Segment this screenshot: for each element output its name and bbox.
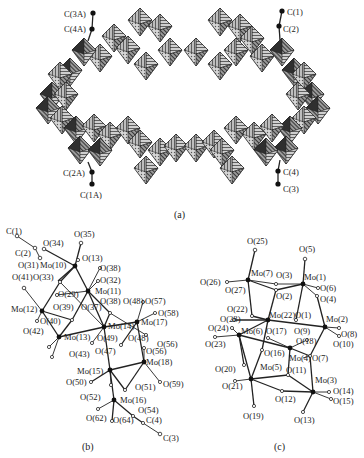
label-o20: O(20) xyxy=(215,364,236,374)
label-o37: O(37) xyxy=(81,302,102,312)
label-o22: O(22) xyxy=(227,304,248,314)
label-o27: O(27) xyxy=(225,285,246,295)
label-o43: O(43) xyxy=(69,349,90,359)
caption-a-text: (a) xyxy=(174,209,185,220)
label-o26: O(26) xyxy=(200,277,221,287)
label-o12: O(12) xyxy=(275,394,296,404)
top-polyhedra-arc xyxy=(88,8,274,80)
ethyl-group-top-right: C(1) C(2) xyxy=(276,7,302,40)
label-o5: O(5) xyxy=(299,244,315,254)
label-o48-b: O(48) xyxy=(128,333,149,343)
label-c3a: C(3A) xyxy=(64,9,86,19)
ball-stick-diagram-b: C(1) O(34) O(35) C(2) O(13) O(31) Mo(10)… xyxy=(0,222,195,458)
label-mo6: Mo(6) xyxy=(241,326,263,336)
label-o42: O(42) xyxy=(23,326,44,336)
caption-c: (c) xyxy=(274,441,285,453)
label-mo11: Mo(11) xyxy=(95,286,121,296)
label-c4: C(4) xyxy=(146,415,162,425)
label-mo18: Mo(18) xyxy=(146,357,172,367)
label-c4a: C(4A) xyxy=(64,24,86,34)
label-c2: C(2) xyxy=(15,248,31,258)
caption-a-wrapper: (a) xyxy=(174,209,185,220)
label-o40: O(40) xyxy=(40,316,61,326)
label-c2: C(2) xyxy=(283,24,299,34)
label-o62: O(62) xyxy=(86,413,107,423)
label-mo14: Mo(14) xyxy=(108,321,134,331)
label-o57: O(57) xyxy=(145,296,166,306)
label-o39: O(39) xyxy=(53,302,74,312)
label-o38: O(38) xyxy=(100,263,121,273)
panel-c: O(25) O(5) Mo(7) O(3) Mo(1) O(26) O(6) O… xyxy=(195,222,364,458)
label-o41: O(41) xyxy=(12,272,33,282)
label-o32: O(32) xyxy=(100,275,121,285)
caption-b: (b) xyxy=(82,441,94,453)
label-o4: O(4) xyxy=(320,294,336,304)
label-mo13: Mo(13) xyxy=(64,332,90,342)
label-o8: O(8) xyxy=(341,329,357,339)
bottom-polyhedra-arc xyxy=(88,116,278,184)
label-o6: O(6) xyxy=(320,283,336,293)
label-mo15: Mo(15) xyxy=(77,366,103,376)
label-o3: O(3) xyxy=(276,270,292,280)
label-c4: C(4) xyxy=(283,167,299,177)
label-c3: C(3) xyxy=(163,433,179,443)
label-c1a: C(1A) xyxy=(80,190,102,200)
panel-b: C(1) O(34) O(35) C(2) O(13) O(31) Mo(10)… xyxy=(0,222,195,458)
label-o56-b: O(56) xyxy=(146,346,167,356)
label-o14: O(14) xyxy=(333,386,354,396)
label-o59: O(59) xyxy=(163,379,184,389)
label-mo7: Mo(7) xyxy=(251,268,273,278)
label-mo5: Mo(5) xyxy=(260,362,282,372)
label-mo2: Mo(2) xyxy=(326,314,348,324)
panel-a: C(3A) C(4A) C(1) C(2) C(2A) C(1A) C(4) C… xyxy=(0,0,364,212)
label-mo17: Mo(17) xyxy=(141,317,167,327)
label-o25: O(25) xyxy=(247,236,268,246)
label-o2: O(2) xyxy=(276,291,292,301)
label-o15: O(15) xyxy=(333,396,354,406)
label-c3: C(3) xyxy=(283,184,299,194)
label-o1: O(1) xyxy=(295,310,311,320)
polyhedral-ring-diagram: C(3A) C(4A) C(1) C(2) C(2A) C(1A) C(4) C… xyxy=(0,0,364,212)
ball-stick-diagram-c: O(25) O(5) Mo(7) O(3) Mo(1) O(26) O(6) O… xyxy=(195,222,364,458)
label-o29: O(29) xyxy=(58,289,79,299)
label-mo22: Mo(22) xyxy=(269,310,295,320)
label-o17: O(17) xyxy=(266,326,287,336)
label-o16: O(16) xyxy=(264,348,285,358)
label-o33: O(33) xyxy=(33,272,54,282)
label-o24: O(24) xyxy=(208,323,229,333)
label-o49: O(49) xyxy=(97,333,118,343)
ethyl-group-bottom-left: C(2A) C(1A) xyxy=(63,162,102,200)
label-o21: O(21) xyxy=(222,381,243,391)
label-o48: O(48) xyxy=(123,296,144,306)
label-mo3: Mo(3) xyxy=(315,375,337,385)
label-mo10: Mo(10) xyxy=(40,260,66,270)
label-c2a: C(2A) xyxy=(63,168,85,178)
label-o7: O(7) xyxy=(312,353,328,363)
label-o11: O(11) xyxy=(286,365,306,375)
labels-c: O(25) O(5) Mo(7) O(3) Mo(1) O(26) O(6) O… xyxy=(200,236,357,425)
label-c1: C(1) xyxy=(6,226,22,236)
label-o64: O(64) xyxy=(113,415,134,425)
label-o51: O(51) xyxy=(135,382,156,392)
label-o13: O(13) xyxy=(82,253,103,263)
label-o34: O(34) xyxy=(43,238,64,248)
labels-b: C(1) O(34) O(35) C(2) O(13) O(31) Mo(10)… xyxy=(6,226,184,443)
label-o47: O(47) xyxy=(95,346,116,356)
label-c1: C(1) xyxy=(287,7,303,17)
label-mo1: Mo(1) xyxy=(304,272,326,282)
label-o38-b: O(38) xyxy=(100,296,121,306)
label-mo12: Mo(12) xyxy=(11,304,37,314)
label-o10: O(10) xyxy=(333,339,354,349)
label-mo4: Mo(4) xyxy=(289,353,311,363)
label-o19: O(19) xyxy=(243,411,264,421)
label-mo16: Mo(16) xyxy=(120,395,146,405)
label-o35: O(35) xyxy=(74,229,95,239)
label-o52: O(52) xyxy=(80,392,101,402)
label-o23: O(23) xyxy=(205,339,226,349)
label-o9: O(9) xyxy=(294,326,310,336)
ethyl-group-top-left: C(3A) C(4A) xyxy=(64,9,96,41)
label-o13: O(13) xyxy=(294,415,315,425)
label-o50: O(50) xyxy=(66,377,87,387)
label-o18: O(18) xyxy=(296,336,317,346)
ethyl-group-bottom-right: C(4) C(3) xyxy=(275,160,298,194)
